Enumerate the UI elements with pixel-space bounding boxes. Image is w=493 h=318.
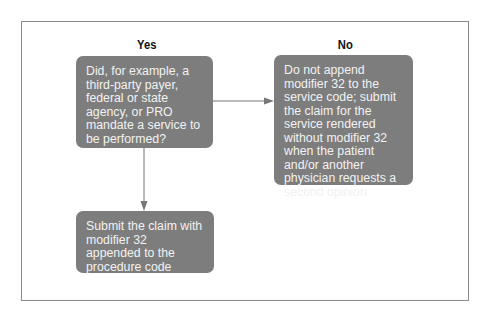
arrow-down-icon	[141, 148, 148, 211]
connector-arrows	[0, 0, 493, 318]
arrow-right-icon	[213, 98, 274, 105]
